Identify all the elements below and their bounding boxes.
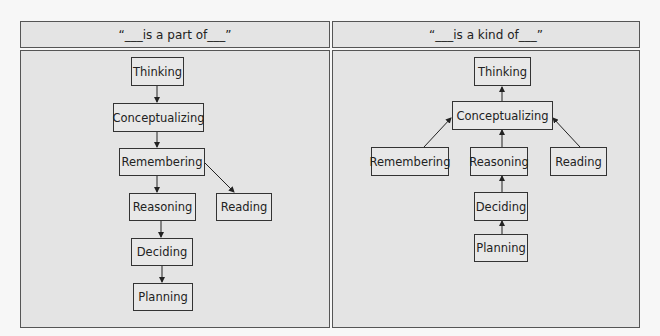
kind-of-title: “___is a kind of___” xyxy=(429,28,543,42)
node-label: Remembering xyxy=(370,155,451,169)
right-node-reading: Reading xyxy=(550,147,607,176)
left-node-reasoning: Reasoning xyxy=(129,193,196,221)
node-label: Conceptualizing xyxy=(112,111,204,125)
right-node-deciding: Deciding xyxy=(474,192,528,221)
right-node-thinking: Thinking xyxy=(474,57,531,86)
right-node-reasoning: Reasoning xyxy=(470,147,528,176)
node-label: Reasoning xyxy=(469,155,529,169)
node-label: Deciding xyxy=(137,245,188,259)
left-node-thinking: Thinking xyxy=(131,57,184,86)
left-node-remembering: Remembering xyxy=(119,148,205,176)
right-node-planning: Planning xyxy=(474,234,528,262)
node-label: Remembering xyxy=(122,155,203,169)
left-node-reading: Reading xyxy=(216,193,272,221)
left-node-deciding: Deciding xyxy=(131,238,193,266)
node-label: Reading xyxy=(221,200,268,214)
part-of-header: “___is a part of___” xyxy=(20,21,330,48)
kind-of-header: “___is a kind of___” xyxy=(332,21,640,48)
node-label: Planning xyxy=(476,241,526,255)
left-node-planning: Planning xyxy=(133,283,193,311)
node-label: Planning xyxy=(138,290,188,304)
node-label: Thinking xyxy=(133,65,182,79)
node-label: Conceptualizing xyxy=(456,109,548,123)
right-node-conceptualizing: Conceptualizing xyxy=(452,101,553,130)
node-label: Thinking xyxy=(478,65,527,79)
node-label: Reading xyxy=(555,155,602,169)
node-label: Reasoning xyxy=(133,200,193,214)
kind-of-diagram-panel xyxy=(332,50,640,328)
left-node-conceptualizing: Conceptualizing xyxy=(113,103,204,132)
node-label: Deciding xyxy=(476,200,527,214)
part-of-title: “___is a part of___” xyxy=(119,28,232,42)
right-node-remembering: Remembering xyxy=(371,147,449,176)
